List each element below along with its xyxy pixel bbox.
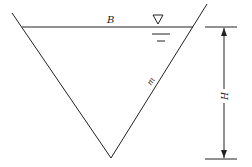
- channel-diagram: B m H: [0, 0, 252, 167]
- top-width-label: B: [106, 14, 114, 25]
- depth-arrow-down-icon: [221, 150, 227, 158]
- depth-arrow-up-icon: [221, 28, 227, 36]
- side-slope-label: m: [145, 75, 157, 87]
- depth-label: H: [219, 91, 229, 100]
- water-surface-triangle-icon: [153, 15, 163, 24]
- left-channel-wall: [12, 13, 111, 158]
- diagram-svg: B m H: [0, 0, 252, 167]
